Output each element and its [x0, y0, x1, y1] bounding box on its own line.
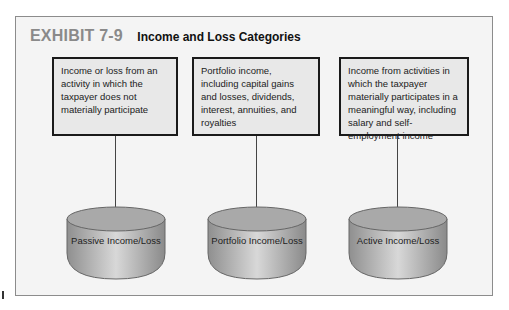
description-box-passive: Income or loss from an activity in which… — [52, 57, 178, 136]
description-text: Income from activities in which the taxp… — [348, 65, 458, 141]
category-label: Passive Income/Loss — [66, 235, 166, 246]
description-box-active: Income from activities in which the taxp… — [339, 57, 469, 136]
category-cylinder-portfolio: Portfolio Income/Loss — [207, 205, 307, 281]
category-cylinder-active: Active Income/Loss — [348, 205, 448, 281]
category-label: Active Income/Loss — [348, 235, 448, 246]
description-text: Portfolio income, including capital gain… — [201, 65, 297, 128]
page-edge-mark — [2, 291, 4, 299]
exhibit-header: EXHIBIT 7-9 Income and Loss Categories — [30, 27, 301, 45]
category-label: Portfolio Income/Loss — [207, 235, 307, 246]
exhibit-label: EXHIBIT 7-9 — [30, 27, 123, 44]
description-box-portfolio: Portfolio income, including capital gain… — [192, 57, 320, 136]
exhibit-title: Income and Loss Categories — [137, 30, 300, 44]
category-cylinder-passive: Passive Income/Loss — [66, 205, 166, 281]
description-text: Income or loss from an activity in which… — [61, 65, 158, 115]
